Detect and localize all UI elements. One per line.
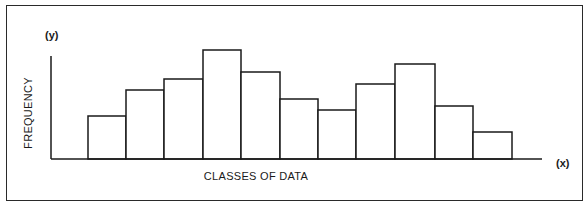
histogram-bar (280, 99, 318, 159)
histogram-bars (88, 50, 512, 159)
histogram-bar (164, 79, 203, 159)
histogram-bar (241, 72, 280, 159)
histogram-bar (88, 116, 126, 159)
histogram-bar (318, 110, 356, 159)
histogram-bar (395, 64, 435, 159)
histogram-bar (203, 50, 241, 159)
histogram-bar (473, 132, 512, 159)
histogram-bar (435, 106, 473, 159)
histogram-plot (0, 0, 588, 212)
histogram-bar (126, 90, 164, 159)
histogram-bar (356, 84, 395, 159)
